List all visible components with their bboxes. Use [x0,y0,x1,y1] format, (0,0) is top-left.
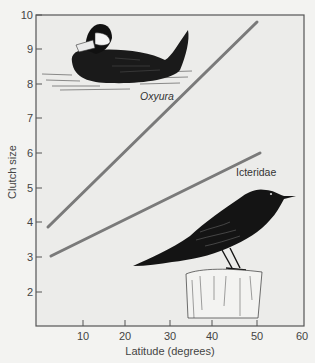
x-tick-30: 30 [164,330,176,342]
y-tick-5: 5 [27,182,33,194]
y-axis-title: Clutch size [6,145,18,199]
clutch-size-chart: 2 3 4 5 6 7 8 9 10 Clutch size 10 20 30 … [0,0,315,363]
icteridae-label: Icteridae [236,166,276,178]
x-tick-10: 10 [77,330,89,342]
x-tick-50: 50 [251,330,263,342]
y-tick-6: 6 [27,147,33,159]
y-tick-8: 8 [27,78,33,90]
y-tick-4: 4 [27,216,33,228]
y-tick-2: 2 [27,286,33,298]
y-tick-7: 7 [27,112,33,124]
x-tick-20: 20 [119,330,131,342]
oxyura-label: Oxyura [140,90,174,102]
x-axis-title: Latitude (degrees) [125,345,214,357]
x-tick-40: 40 [206,330,218,342]
y-tick-10: 10 [21,9,33,21]
y-tick-9: 9 [27,43,33,55]
x-tick-60: 60 [296,330,308,342]
y-tick-3: 3 [27,251,33,263]
